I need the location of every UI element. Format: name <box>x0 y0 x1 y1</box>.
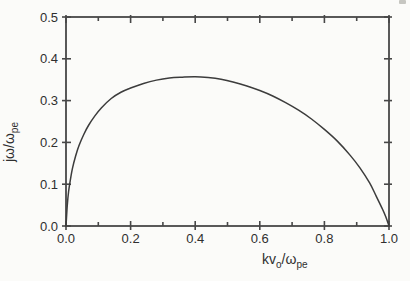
x-tick-label: 0.0 <box>57 231 75 246</box>
y-tick-label: 0.1 <box>40 177 58 192</box>
growth-rate-chart: 0.00.20.40.60.81.00.00.10.20.30.40.5kvo/… <box>0 0 410 281</box>
x-tick-label: 0.4 <box>186 231 204 246</box>
x-tick-label: 0.8 <box>315 231 333 246</box>
y-tick-label: 0.0 <box>40 219 58 234</box>
x-axis-label: kvo/ωpe <box>262 251 308 270</box>
x-tick-label: 0.6 <box>251 231 269 246</box>
y-tick-label: 0.5 <box>40 10 58 25</box>
growth-rate-curve <box>66 77 389 226</box>
scan-artifact <box>399 0 406 4</box>
y-tick-label: 0.3 <box>40 93 58 108</box>
y-axis-label: jω/ωpe <box>1 122 20 163</box>
axis-frame <box>66 17 389 226</box>
x-tick-label: 0.2 <box>122 231 140 246</box>
y-tick-label: 0.4 <box>40 51 58 66</box>
y-tick-label: 0.2 <box>40 135 58 150</box>
x-tick-label: 1.0 <box>380 231 398 246</box>
figure-container: 0.00.20.40.60.81.00.00.10.20.30.40.5kvo/… <box>0 0 410 281</box>
